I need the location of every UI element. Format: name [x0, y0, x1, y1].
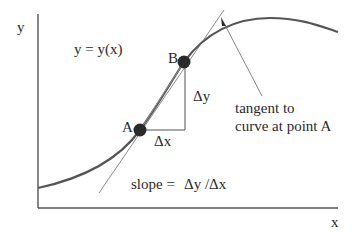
tangent-annotation-line1: tangent to	[235, 101, 295, 116]
arrowhead-icon	[221, 17, 226, 26]
diagram-canvas	[0, 0, 359, 234]
slope-formula-lhs: slope =	[131, 177, 175, 192]
y-axis-label: y	[17, 20, 25, 35]
delta-y-label: Δy	[193, 89, 210, 104]
slope-formula-rhs: Δy /Δx	[184, 177, 226, 192]
tangent-annotation-line2: curve at point A	[235, 119, 331, 134]
delta-x-label: Δx	[154, 134, 171, 149]
tangent-leader-line	[225, 25, 262, 96]
point-b-label: B	[168, 51, 178, 66]
point-b	[178, 56, 191, 69]
x-axis-label: x	[331, 215, 339, 230]
point-a-label: A	[122, 120, 133, 135]
secant-line	[140, 62, 184, 130]
curve-label: y = y(x)	[74, 42, 122, 57]
point-a	[134, 124, 147, 137]
